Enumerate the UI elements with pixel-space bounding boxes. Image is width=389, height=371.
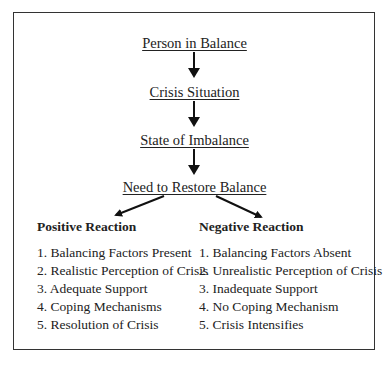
negative-reaction-column: Negative Reaction 1. Balancing Factors A…: [199, 219, 382, 334]
arrow-left-branch-icon: [116, 196, 164, 215]
list-item: 2. Realistic Perception of Crisis: [37, 262, 208, 280]
list-item: 1. Balancing Factors Absent: [199, 244, 382, 262]
list-item: 2. Unrealistic Perception of Crisis: [199, 262, 382, 280]
arrow-right-branch-icon: [216, 196, 261, 217]
list-item: 1. Balancing Factors Present: [37, 244, 208, 262]
negative-reaction-heading: Negative Reaction: [199, 219, 382, 235]
list-item: 4. Coping Mechanisms: [37, 298, 208, 316]
positive-reaction-heading: Positive Reaction: [37, 219, 208, 235]
list-item: 4. No Coping Mechanism: [199, 298, 382, 316]
list-item: 5. Crisis Intensifies: [199, 316, 382, 334]
negative-reaction-list: 1. Balancing Factors Absent 2. Unrealist…: [199, 244, 382, 334]
positive-reaction-column: Positive Reaction 1. Balancing Factors P…: [37, 219, 208, 334]
positive-reaction-list: 1. Balancing Factors Present 2. Realisti…: [37, 244, 208, 334]
list-item: 3. Inadequate Support: [199, 280, 382, 298]
list-item: 5. Resolution of Crisis: [37, 316, 208, 334]
list-item: 3. Adequate Support: [37, 280, 208, 298]
